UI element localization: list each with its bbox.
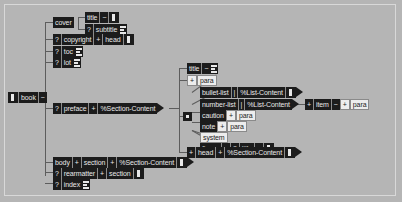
diagram-canvas: book ~ cover title ~ ? subtitle ? copyri… [0,0,402,202]
body-sep-mod: + [107,157,116,168]
connector-to-index [45,183,53,184]
content-model-icon [82,179,90,190]
caution-label: caution [200,110,226,121]
number-list-sep: | [238,99,245,110]
number-list-label: number-list [200,99,238,110]
node-body[interactable]: body + section + %Section-Content [53,157,194,168]
rearmatter-label: rearmatter [61,168,97,179]
book-repeat-symbol: ~ [38,92,47,103]
connector-sect-title [179,68,187,69]
head-section-child: %Section-Content [224,147,284,158]
body-mod: + [72,157,81,168]
item-repeat: ~ [331,99,340,110]
cover-title-repeat: ~ [99,12,108,23]
copyright-bar [123,34,134,45]
book-label: book [18,92,38,103]
node-preface[interactable]: ? preface + %Section-Content [53,103,164,114]
node-head-section[interactable]: + head + %Section-Content [187,147,302,158]
bullet-list-sep: | [231,87,238,98]
node-section-para[interactable]: + para [187,75,217,86]
node-lot[interactable]: ? lot [53,57,81,68]
section-title-label: title [187,63,201,74]
connector-to-rearmatter [45,172,53,173]
item-mod: + [305,99,313,110]
preface-optional: ? [53,103,61,114]
connector-to-copyright [45,39,53,40]
cover-label: cover [53,17,74,28]
copyright-label: copyright [61,34,94,45]
node-copyright[interactable]: ? copyright + head [53,34,134,45]
body-section-label: section [81,157,107,168]
expand-arrow-icon[interactable] [157,103,164,113]
rearmatter-section-label: section [106,168,132,179]
index-label: index [61,179,82,190]
expand-arrow-icon[interactable] [187,157,194,167]
node-item[interactable]: + item ~ + para [305,99,369,110]
node-system[interactable]: system [200,132,228,143]
connector-to-body [45,162,53,163]
index-optional: ? [53,179,61,190]
lot-optional: ? [53,57,61,68]
body-child-section-content: %Section-Content [116,157,176,168]
number-list-child: %List-Content [244,99,292,110]
item-child-mod: + [340,99,350,110]
connector-to-cover [45,22,53,23]
preface-label: preface [61,103,89,114]
bullet-list-child: %List-Content [237,87,285,98]
node-book[interactable]: book ~ [8,92,47,103]
rearmatter-bar [133,168,144,179]
note-child-label: para [227,121,247,132]
connector-choice-caution [192,112,200,113]
node-cover[interactable]: cover [53,17,74,28]
node-toc[interactable]: ? toc [53,46,83,57]
caution-child-mod: + [226,110,236,121]
node-bullet-list[interactable]: bullet-list | %List-Content [200,87,303,98]
connector-choice-note [192,122,200,123]
node-index[interactable]: ? index [53,179,90,190]
connector-cover-title [78,17,85,18]
book-bar [8,92,18,103]
section-para-label: para [197,75,217,86]
bullet-list-bar [285,87,296,98]
cover-title-label: title [85,12,99,23]
cover-title-bar [108,12,119,23]
content-model-icon [75,46,83,57]
connector-sect-head [179,152,187,153]
preface-mod: + [88,103,97,114]
connector-to-toc [45,51,53,52]
connector-to-lot [45,62,53,63]
expand-arrow-icon[interactable] [292,99,299,109]
choice-junction[interactable] [183,112,192,121]
expand-arrow-icon[interactable] [296,87,303,97]
toc-optional: ? [53,46,61,57]
item-child-label: para [350,99,370,110]
head-section-sep-mod: + [215,147,224,158]
item-label: item [313,99,331,110]
caution-child-label: para [236,110,256,121]
connector-to-preface [45,108,53,109]
expand-arrow-icon[interactable] [295,147,302,157]
copyright-optional: ? [53,34,61,45]
node-cover-title[interactable]: title ~ [85,12,119,23]
node-number-list[interactable]: number-list | %List-Content [200,99,299,110]
content-model-icon [210,63,218,74]
rearmatter-mod: + [97,168,106,179]
node-section-title[interactable]: title ~ [187,63,218,74]
connector-cover-trunk [78,17,79,29]
connector-preface-out [169,108,179,109]
section-title-repeat: ~ [201,63,210,74]
preface-child-section-content: %Section-Content [97,103,157,114]
section-para-mod: + [187,75,197,86]
toc-label: toc [61,46,75,57]
copyright-child-head: head [102,34,122,45]
content-model-icon [73,57,81,68]
bullet-list-label: bullet-list [200,87,231,98]
rearmatter-optional: ? [53,168,61,179]
connector-cover-subtitle [78,29,85,30]
body-bar [176,157,187,168]
node-note[interactable]: note + para [200,121,247,132]
node-caution[interactable]: caution + para [200,110,256,121]
node-rearmatter[interactable]: ? rearmatter + section [53,168,144,179]
body-label: body [53,157,72,168]
system-label: system [200,132,228,143]
